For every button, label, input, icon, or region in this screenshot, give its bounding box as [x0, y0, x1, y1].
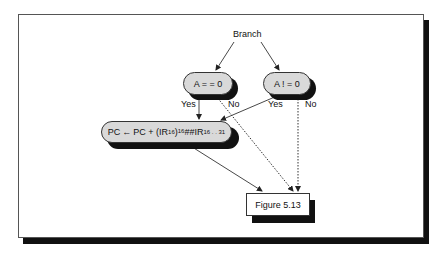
edge-branch-to-aeq0	[216, 42, 234, 70]
aeq0-no-label: No	[228, 99, 240, 109]
aneq0-no-label: No	[305, 99, 317, 109]
formula-concat: ##IR	[184, 127, 203, 137]
formula-sub1: 16	[168, 129, 175, 135]
edge-branch-to-aneq0	[261, 42, 279, 70]
formula-sup1: 16	[178, 128, 185, 134]
formula-lhs: PC	[108, 127, 121, 137]
aeq0-yes-label: Yes	[181, 99, 196, 109]
pc-update-action: PC ← PC + (IR16)16##IR16 . . 31	[101, 121, 232, 143]
branch-label: Branch	[233, 29, 262, 39]
edge-pc-to-figure	[189, 145, 262, 191]
condition-a-not-zero: A ! = 0	[263, 72, 311, 95]
aneq0-yes-label: Yes	[268, 99, 283, 109]
target-figure-box: Figure 5.13	[246, 193, 310, 216]
formula-rhs-prefix: PC + (IR	[133, 127, 168, 137]
formula-sub2: 16 . . 31	[203, 129, 225, 135]
condition-a-equals-zero: A = = 0	[183, 72, 233, 95]
assign-arrow-icon: ←	[122, 127, 131, 137]
